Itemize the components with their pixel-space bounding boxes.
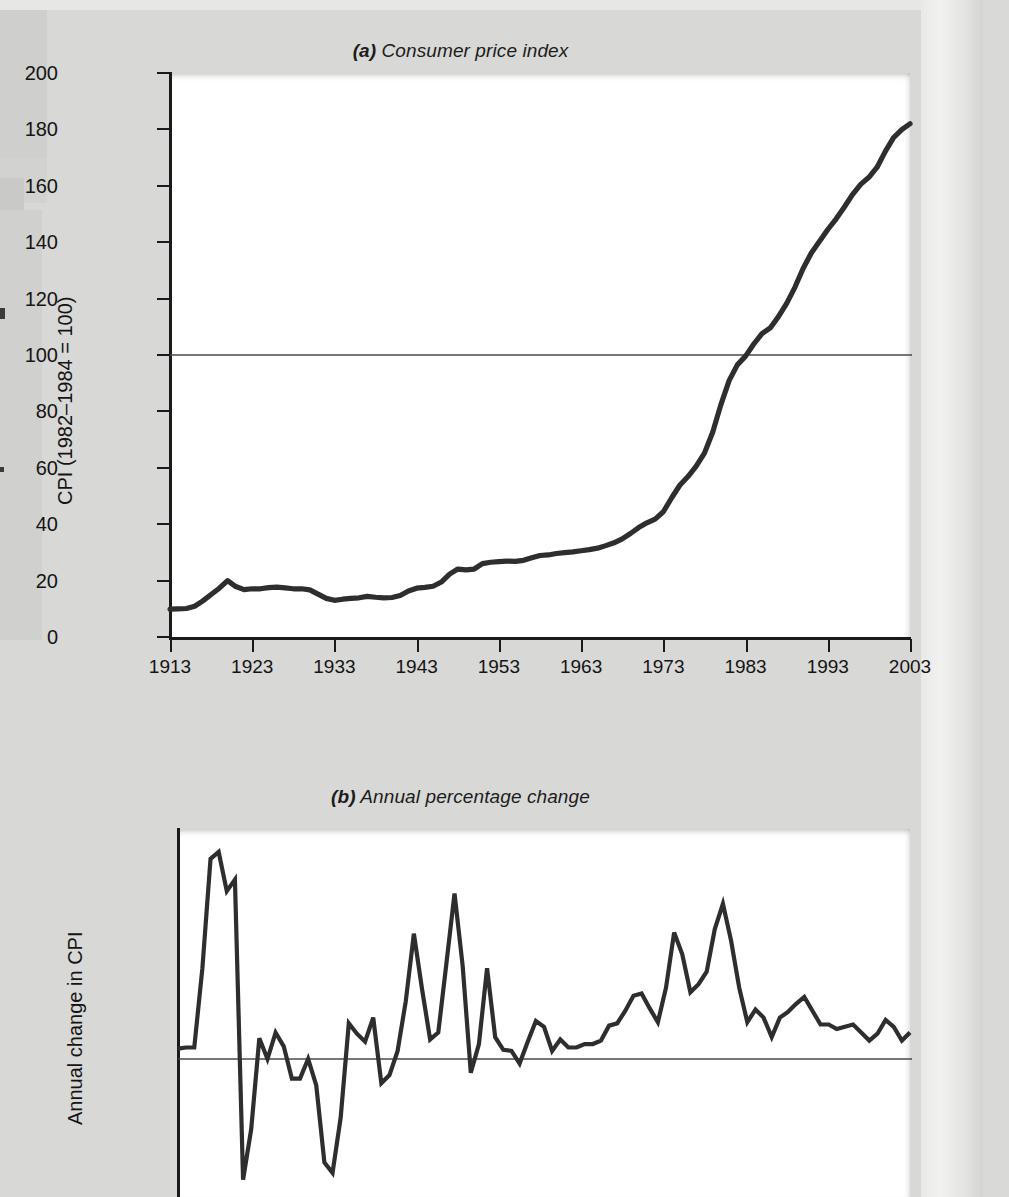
figure-a-y-tick-mark (157, 128, 170, 130)
figure-b-title: (b) Annual percentage change (0, 786, 921, 808)
figure-a-cpi-line (170, 124, 910, 609)
figure-a-x-tick-label: 1993 (807, 656, 849, 678)
figure-a-y-tick-mark (157, 241, 170, 243)
figure-a-x-tick-label: 1973 (642, 656, 684, 678)
figure-a-y-tick-label: 40 (36, 513, 58, 536)
figure-a-y-tick-label: 180 (25, 118, 58, 141)
figure-a-y-tick-label: 140 (25, 231, 58, 254)
figure-a-x-tick-label: 2003 (889, 656, 931, 678)
figure-b-title-text: Annual percentage change (356, 786, 590, 807)
figure-a-x-tick-mark (746, 639, 748, 652)
figure-a-y-tick-mark (157, 72, 170, 74)
figure-a-y-tick-mark (157, 354, 170, 356)
figure-a-x-tick-label: 1933 (313, 656, 355, 678)
figure-a-x-tick-mark (499, 639, 501, 652)
figure-a-y-tick-label: 60 (36, 456, 58, 479)
figure-a-y-tick-label: 20 (36, 569, 58, 592)
figure-a-x-tick-mark (170, 639, 172, 652)
figure-a-x-tick-mark (663, 639, 665, 652)
figure-a-y-tick-label: 160 (25, 174, 58, 197)
page-right-margin (983, 0, 1009, 1197)
figure-a-y-tick-mark (157, 298, 170, 300)
figure-a-x-tick-mark (417, 639, 419, 652)
figure-b-label: (b) (331, 786, 356, 807)
figure-a-y-tick-mark (157, 523, 170, 525)
figure-a-y-tick-label: 200 (25, 62, 58, 85)
figure-b-y-axis-title: Annual change in CPI (64, 932, 87, 1125)
figure-a-y-tick-mark (157, 185, 170, 187)
figure-a-y-tick-label: 0 (47, 626, 58, 649)
figure-a-x-tick-label: 1943 (396, 656, 438, 678)
figure-a-plot-area (170, 73, 910, 637)
figure-a-y-tick-mark (157, 467, 170, 469)
figure-a-title-text: Consumer price index (376, 40, 568, 61)
figure-a-x-tick-mark (581, 639, 583, 652)
figure-annual-percentage-change: (b) Annual percentage change Annual chan… (0, 760, 921, 1197)
figure-a-x-tick-label: 1953 (478, 656, 520, 678)
figure-a-x-axis-line (169, 637, 911, 640)
figure-b-plot-area (178, 829, 910, 1197)
figure-a-x-tick-mark (828, 639, 830, 652)
figure-a-x-tick-label: 1923 (231, 656, 273, 678)
figure-a-y-tick-label: 120 (25, 287, 58, 310)
figure-a-x-tick-label: 1963 (560, 656, 602, 678)
figure-consumer-price-index: (a) Consumer price index CPI (1982–1984 … (0, 0, 921, 700)
figure-a-x-tick-label: 1913 (149, 656, 191, 678)
figure-a-y-tick-mark (157, 636, 170, 638)
figure-a-label: (a) (353, 40, 377, 61)
figure-a-y-tick-label: 80 (36, 400, 58, 423)
figure-a-x-tick-mark (334, 639, 336, 652)
figure-a-x-tick-mark (910, 639, 912, 652)
figure-a-y-tick-mark (157, 580, 170, 582)
figure-a-title: (a) Consumer price index (0, 40, 921, 62)
figure-a-series-svg (170, 73, 910, 637)
figure-a-y-tick-label: 100 (25, 344, 58, 367)
figure-a-x-tick-mark (252, 639, 254, 652)
figure-a-y-tick-mark (157, 410, 170, 412)
figure-a-x-tick-label: 1983 (724, 656, 766, 678)
figure-b-series-svg (178, 829, 910, 1197)
figure-b-change-line (178, 852, 910, 1180)
page-right-edge (921, 0, 983, 1197)
